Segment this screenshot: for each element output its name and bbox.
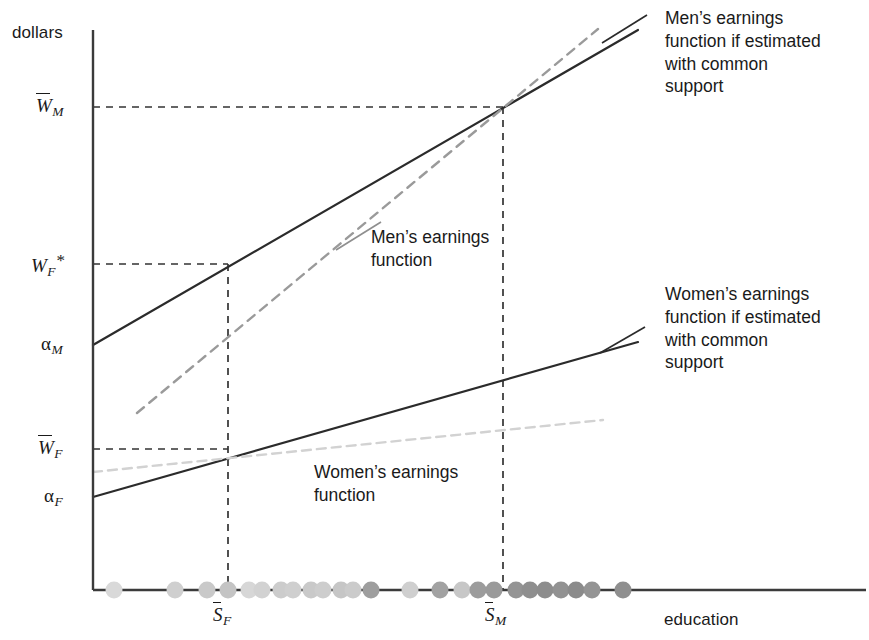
scatter-dot-16 [470,582,487,599]
figure-canvas: dollars education WM WF* αM WF αF SF SM … [0,0,869,640]
y-tick-label-w-bar-f: WF [38,436,63,463]
scatter-dot-1 [167,582,184,599]
scatter-dot-12 [363,582,380,599]
scatter-dot-3 [220,582,237,599]
x-tick-label-s-bar-f: SF [213,603,231,630]
scatter-dot-24 [615,582,632,599]
y-tick-label-w-bar-m: WM [36,94,64,121]
scatter-dot-15 [454,582,471,599]
y-axis-label: dollars [12,22,63,44]
series-line-1 [137,29,598,413]
scatter-dot-20 [537,582,554,599]
x-axis-label: education [664,609,739,631]
annotation-women-function: Women’s earnings function [314,461,458,507]
scatter-dot-13 [402,582,419,599]
leader-line-women-common-support [600,327,645,353]
annotation-women-common-support: Women’s earnings function if estimated w… [665,283,821,374]
annotation-men-function: Men’s earnings function [371,226,489,272]
series-line-0 [93,30,638,345]
y-tick-label-alpha-m: αM [41,332,63,359]
x-tick-label-s-bar-m: SM [485,603,506,630]
scatter-dot-21 [553,582,570,599]
y-tick-label-w-f-star: WF* [31,250,65,280]
scatter-dot-5 [254,582,271,599]
scatter-dot-2 [199,582,216,599]
scatter-dot-14 [432,582,449,599]
annotation-men-common-support: Men’s earnings function if estimated wit… [665,7,821,98]
scatter-dot-7 [285,582,302,599]
y-tick-label-alpha-f: αF [44,484,63,511]
scatter-dot-22 [568,582,585,599]
series-group [93,29,638,497]
scatter-dot-23 [584,582,601,599]
scatter-dot-11 [345,582,362,599]
scatter-dot-9 [315,582,332,599]
guide-lines-group [93,107,503,590]
scatter-dot-19 [522,582,539,599]
scatter-dot-0 [106,582,123,599]
leader-lines-group [336,15,647,353]
scatter-dot-17 [486,582,503,599]
